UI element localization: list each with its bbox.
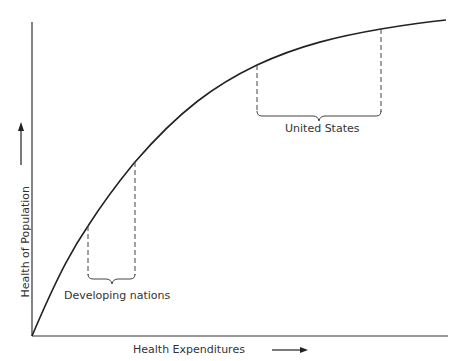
x-axis-label: Health Expenditures (133, 343, 245, 356)
developing-label: Developing nations (64, 289, 170, 302)
diagram-canvas (0, 0, 460, 361)
developing-brace (88, 274, 135, 284)
y-axis-label: Health of Population (19, 188, 32, 298)
us-brace (257, 111, 381, 121)
y-arrow-icon (18, 122, 24, 131)
x-arrow-icon (300, 347, 308, 353)
us-label: United States (285, 122, 360, 135)
